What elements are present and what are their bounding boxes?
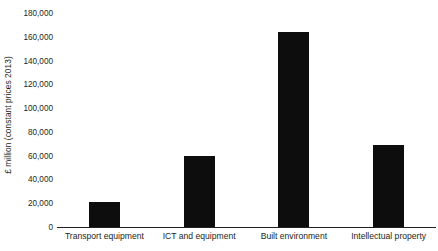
x-axis-tick-label: Intellectual property [329,231,438,242]
y-axis-tick-label: 120,000 [1,80,53,89]
y-axis-tick-labels: 020,00040,00060,00080,000100,000120,0001… [0,0,53,251]
y-axis-tick-label: 100,000 [1,104,53,113]
bar [373,145,404,227]
bar-chart: £ million (constant prices 2013) 020,000… [0,0,438,251]
x-axis-tick-labels: Transport equipmentICT and equipmentBuil… [57,231,436,251]
y-axis-tick-label: 140,000 [1,56,53,65]
y-axis-tick-label: 160,000 [1,32,53,41]
y-axis-tick-label: 20,000 [1,199,53,208]
y-axis-tick-label: 40,000 [1,175,53,184]
y-axis-tick-label: 80,000 [1,127,53,136]
bar [184,156,215,227]
x-axis-line [57,227,436,228]
y-axis-tick-label: 60,000 [1,151,53,160]
bar [278,32,309,227]
bar [89,202,120,227]
plot-area [57,0,436,227]
y-axis-tick-label: 180,000 [1,9,53,18]
